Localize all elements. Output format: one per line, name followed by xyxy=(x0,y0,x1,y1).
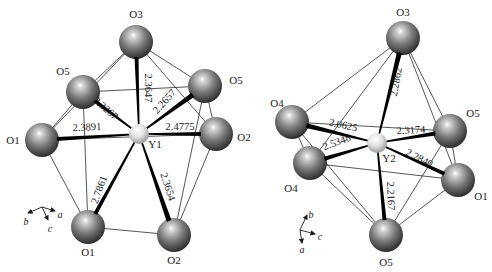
bond-length-label: 2.7861 xyxy=(89,174,109,205)
axis-arrow-b-icon xyxy=(28,207,42,213)
axis-arrow-b-icon xyxy=(300,215,307,230)
oxygen-atom-o1 xyxy=(71,210,105,244)
bond-length-label: 2.3891 xyxy=(72,121,101,133)
bond-length-label: 2.2167 xyxy=(385,181,397,210)
oxygen-atom-o2 xyxy=(199,117,233,151)
atom-label: O5 xyxy=(56,65,70,77)
oxygen-atom-o5 xyxy=(369,218,403,252)
axis-triad-y1: bca xyxy=(24,207,63,234)
bond-length-label: 2.2840 xyxy=(404,147,435,170)
oxygen-atom-o1 xyxy=(441,163,475,197)
bond-length-label: 2.3267 xyxy=(91,94,120,121)
yttrium-atom-y1 xyxy=(129,124,149,144)
polyhedron-edge xyxy=(83,92,88,227)
oxygen-atom-o2 xyxy=(157,218,191,252)
atom-label: O3 xyxy=(396,6,410,18)
atom-label: O4 xyxy=(270,97,284,109)
axis-arrow-c-icon xyxy=(300,230,315,234)
atom-label: O1 xyxy=(6,134,19,146)
axis-label: a xyxy=(58,209,63,220)
center-atom-label: Y2 xyxy=(382,152,395,164)
yttrium-atom-y2 xyxy=(367,133,387,153)
atom-label: O1 xyxy=(474,190,487,202)
bond-length-label: 2.2862 xyxy=(388,67,404,97)
axis-label: b xyxy=(309,209,314,220)
oxygen-atom-o5 xyxy=(433,114,467,148)
axis-label: c xyxy=(318,231,323,242)
bond-length-label: 2.3174 xyxy=(396,124,426,137)
bond-length-label: 2.4775 xyxy=(166,121,195,132)
bond-y1-o3 xyxy=(134,57,139,128)
axis-label: c xyxy=(48,223,53,234)
atom-label: O5 xyxy=(379,256,393,268)
oxygen-atom-o3 xyxy=(119,25,153,59)
bond-length-label: 2.5348 xyxy=(321,132,352,152)
coordination-polyhedra-figure: O3O5O5O1O2O1O22.36472.32672.26572.38912.… xyxy=(0,0,492,272)
center-atom-label: Y1 xyxy=(148,138,161,150)
atom-label: O4 xyxy=(284,182,298,194)
atom-label: O1 xyxy=(81,246,94,258)
atom-label: O2 xyxy=(237,131,250,143)
atom-label: O5 xyxy=(466,107,480,119)
atom-label: O3 xyxy=(129,8,143,20)
polyhedron-edge xyxy=(174,86,205,235)
bond-length-label: 2.3647 xyxy=(143,74,154,103)
bond-y1-o2 xyxy=(145,132,201,136)
oxygen-atom-o3 xyxy=(386,21,420,55)
axis-triad-y2: bca xyxy=(300,209,323,255)
oxygen-atom-o1 xyxy=(25,123,59,157)
polyhedra-svg: O3O5O5O1O2O1O22.36472.32672.26572.38912.… xyxy=(0,0,492,272)
axis-arrow-a-icon xyxy=(300,230,302,243)
oxygen-atom-o5 xyxy=(188,69,222,103)
oxygen-atom-o4 xyxy=(275,105,309,139)
axis-label: a xyxy=(300,244,305,255)
oxygen-atom-o4 xyxy=(293,146,327,180)
axis-label: b xyxy=(24,216,29,227)
atom-label: O5 xyxy=(229,74,243,86)
atom-label: O2 xyxy=(167,254,180,266)
